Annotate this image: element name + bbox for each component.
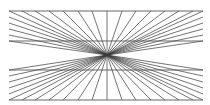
ray-line	[35, 55, 107, 100]
ray-line	[107, 55, 151, 100]
ray-line	[9, 23, 107, 55]
ray-line	[9, 17, 107, 55]
ray-line	[9, 35, 107, 55]
ray-line	[107, 11, 165, 55]
ray-line	[107, 11, 151, 55]
ray-line	[107, 17, 203, 55]
ray-line	[9, 55, 107, 76]
ray-line	[107, 23, 203, 55]
ray-line	[107, 55, 203, 76]
ray-line	[107, 55, 203, 88]
hering-illusion-figure	[0, 0, 210, 105]
ray-line	[107, 55, 203, 94]
ray-line	[9, 41, 107, 55]
ray-line	[107, 11, 179, 55]
ray-line	[107, 35, 203, 55]
ray-line	[35, 11, 107, 55]
ray-line	[107, 55, 165, 100]
ray-line	[63, 55, 107, 100]
ray-line	[107, 55, 179, 100]
ray-line	[63, 11, 107, 55]
radiating-lines-diagram	[0, 0, 210, 105]
ray-line	[9, 55, 107, 88]
ray-line	[9, 55, 107, 94]
